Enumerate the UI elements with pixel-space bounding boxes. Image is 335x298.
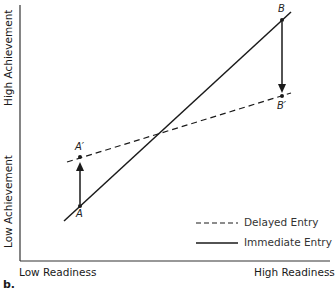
label-a-prime: A′	[75, 141, 84, 152]
y-axis-top-label: High Achievement	[2, 10, 14, 106]
label-a: A	[76, 208, 83, 219]
legend-immediate-entry: Immediate Entry	[244, 236, 332, 248]
label-b-prime: B′	[277, 100, 286, 111]
arrow-b-to-b-prime	[278, 22, 286, 93]
panel-label: b.	[3, 278, 15, 291]
label-b: B	[278, 3, 285, 14]
delayed-entry-line	[67, 93, 291, 162]
legend-delayed-entry: Delayed Entry	[244, 216, 319, 228]
immediate-entry-line	[64, 12, 291, 221]
point-b-prime	[280, 94, 284, 98]
point-b	[280, 18, 284, 22]
y-axis-bottom-label: Low Achievement	[2, 155, 14, 248]
point-a-prime	[78, 155, 82, 159]
x-axis-left-label: Low Readiness	[19, 266, 96, 278]
x-axis-right-label: High Readiness	[254, 266, 335, 278]
arrow-a-to-a-prime	[76, 162, 84, 204]
